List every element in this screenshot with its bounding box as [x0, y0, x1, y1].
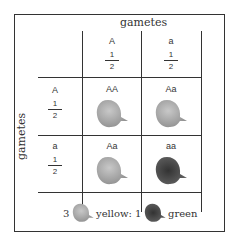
column-header-a: a: [156, 36, 186, 46]
grid-vline-3: [201, 31, 202, 212]
fraction-bar: [164, 60, 178, 61]
grid-hline-2: [38, 135, 202, 136]
yellow-pea-icon: [153, 98, 189, 130]
fraction-denominator: 2: [110, 62, 114, 71]
row-header-a: a: [40, 141, 70, 151]
yellow-pea-icon: [94, 98, 130, 130]
cell-genotype-aa: aa: [156, 141, 186, 151]
fraction-bar: [105, 60, 119, 61]
fraction-numerator: 1: [53, 99, 57, 108]
fraction-bar: [48, 109, 62, 110]
fraction-bar: [48, 165, 62, 166]
row-fraction-A: 1 2: [48, 99, 62, 120]
fraction-denominator: 2: [53, 111, 57, 120]
legend-green-label: green: [168, 208, 197, 219]
yellow-pea-icon: [94, 155, 130, 187]
fraction-denominator: 2: [53, 167, 57, 176]
legend-yellow-count: 3: [63, 208, 69, 219]
fraction-numerator: 1: [110, 50, 114, 59]
row-header-A: A: [40, 85, 70, 95]
column-header-A: A: [97, 36, 127, 46]
top-gametes-label: gametes: [120, 16, 167, 29]
legend-yellow-pea-icon: [71, 202, 95, 224]
fraction-numerator: 1: [169, 50, 173, 59]
legend-green-pea-icon: [143, 202, 167, 224]
cell-genotype-Aa-2: Aa: [97, 141, 127, 151]
green-pea-icon: [153, 155, 189, 187]
grid-hline-3: [38, 192, 202, 193]
cell-genotype-Aa-1: Aa: [156, 84, 186, 94]
column-fraction-a: 1 2: [164, 50, 178, 71]
legend-yellow-label: yellow: 1: [96, 208, 141, 219]
fraction-denominator: 2: [169, 62, 173, 71]
row-fraction-a: 1 2: [48, 155, 62, 176]
cell-genotype-AA: AA: [97, 84, 127, 94]
grid-vline-2: [141, 31, 142, 212]
grid-hline-1: [38, 77, 202, 78]
side-gametes-label: gametes: [15, 112, 28, 162]
column-fraction-A: 1 2: [105, 50, 119, 71]
fraction-numerator: 1: [53, 155, 57, 164]
grid-vline-1: [82, 31, 83, 212]
